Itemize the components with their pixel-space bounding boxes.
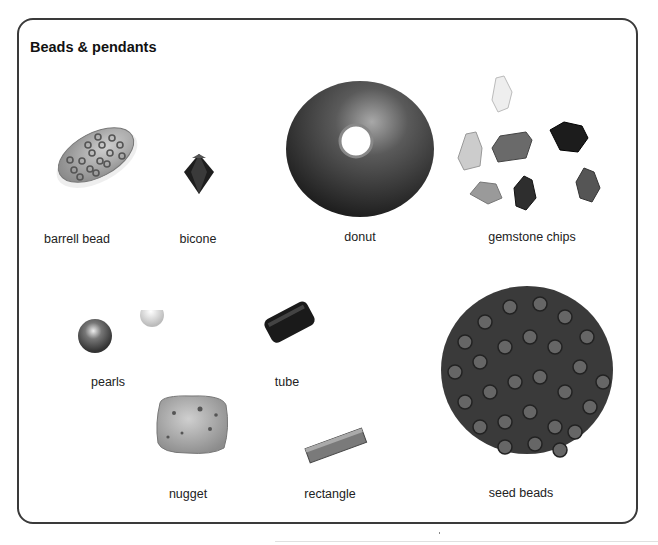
seed-beads-image [435, 282, 620, 462]
gemstone-chips-label: gemstone chips [488, 230, 576, 244]
nugget-image [152, 393, 232, 463]
seed-beads-label: seed beads [489, 486, 554, 500]
rectangle-image [300, 420, 372, 472]
bicone-label: bicone [180, 232, 217, 246]
pearls-image [70, 310, 170, 370]
tube-label: tube [275, 375, 299, 389]
gemstone-chips-image [452, 70, 612, 215]
tube-image [260, 295, 320, 351]
bicone-image [178, 150, 220, 200]
rectangle-label: rectangle [304, 487, 355, 501]
donut-image [283, 78, 438, 223]
donut-label: donut [344, 230, 375, 244]
nugget-label: nugget [169, 487, 207, 501]
stray-mark [439, 532, 440, 534]
barrell-bead-image [52, 115, 142, 195]
barrell-bead-label: barrell bead [44, 232, 110, 246]
figure-title: Beads & pendants [30, 39, 157, 55]
bottom-rule [275, 541, 658, 542]
pearls-label: pearls [91, 375, 125, 389]
